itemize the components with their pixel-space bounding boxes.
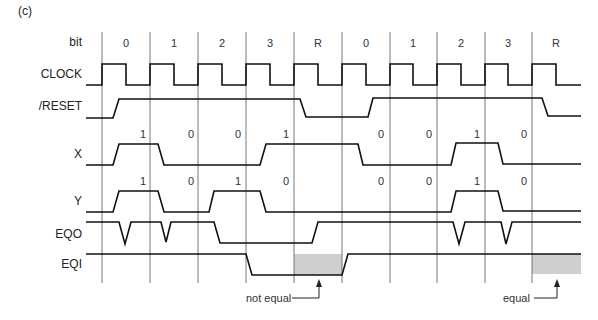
y-value: 0 bbox=[521, 175, 527, 187]
x-value: 1 bbox=[474, 128, 480, 140]
x-value: 1 bbox=[140, 128, 146, 140]
clock-waveform bbox=[86, 64, 581, 85]
not-equal-annotation: not equal bbox=[246, 279, 322, 304]
bit-label: 2 bbox=[458, 37, 464, 49]
y-value: 1 bbox=[474, 175, 480, 187]
y-value: 0 bbox=[426, 175, 432, 187]
eqi-shade-equal bbox=[532, 254, 581, 274]
x-value: 0 bbox=[188, 128, 194, 140]
arrowhead-icon bbox=[316, 279, 322, 287]
x-value: 0 bbox=[426, 128, 432, 140]
y-waveform bbox=[86, 191, 581, 212]
x-value: 1 bbox=[283, 128, 289, 140]
x-value: 0 bbox=[235, 128, 241, 140]
panel-label: (c) bbox=[18, 4, 32, 18]
bit-grid-lines bbox=[102, 32, 532, 283]
bit-label: R bbox=[314, 37, 322, 49]
x-value: 0 bbox=[521, 128, 527, 140]
row-label-eqi: EQI bbox=[61, 257, 82, 271]
y-value: 0 bbox=[188, 175, 194, 187]
bit-label: 0 bbox=[123, 37, 129, 49]
equal-label: equal bbox=[503, 292, 530, 304]
bit-labels: 0 1 2 3 R 0 1 2 3 R bbox=[123, 37, 560, 49]
y-value: 0 bbox=[378, 175, 384, 187]
not-equal-label: not equal bbox=[246, 292, 291, 304]
eqo-waveform bbox=[86, 222, 581, 244]
y-value: 0 bbox=[283, 175, 289, 187]
bit-label: 0 bbox=[363, 37, 369, 49]
row-label-reset: /RESET bbox=[39, 99, 83, 113]
y-value: 1 bbox=[235, 175, 241, 187]
timing-diagram: (c) bit CLOCK /RESET X Y EQO EQI 0 1 2 3… bbox=[0, 0, 598, 320]
reset-waveform bbox=[86, 98, 581, 118]
y-value: 1 bbox=[140, 175, 146, 187]
bit-label: 2 bbox=[219, 37, 225, 49]
bit-label: 1 bbox=[410, 37, 416, 49]
arrowhead-icon bbox=[554, 279, 560, 287]
row-label-clock: CLOCK bbox=[41, 67, 82, 81]
equal-arrow-icon bbox=[534, 284, 557, 298]
not-equal-arrow-icon bbox=[292, 284, 319, 298]
row-label-x: X bbox=[74, 147, 82, 161]
eqi-shade-not-equal bbox=[294, 254, 342, 275]
equal-annotation: equal bbox=[503, 279, 560, 304]
x-waveform bbox=[86, 143, 581, 165]
x-value: 0 bbox=[378, 128, 384, 140]
bit-label: 3 bbox=[267, 37, 273, 49]
bit-label: 3 bbox=[505, 37, 511, 49]
row-label-bit: bit bbox=[69, 35, 82, 49]
row-label-y: Y bbox=[74, 194, 82, 208]
bit-label: 1 bbox=[171, 37, 177, 49]
bit-label: R bbox=[552, 37, 560, 49]
row-label-eqo: EQO bbox=[55, 227, 82, 241]
